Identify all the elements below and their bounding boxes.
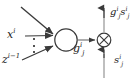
input-ellipsis <box>32 38 36 53</box>
label-input-s-sub: j <box>121 60 123 67</box>
label-input-x-sup: i <box>13 27 15 35</box>
label-input-z: zi−1 <box>2 54 20 65</box>
ellipsis-dot <box>33 51 35 53</box>
label-mid-g: gij <box>73 43 84 54</box>
label-output-gs-sup2: i <box>125 5 127 12</box>
label-mid-g-sub: j <box>82 49 84 57</box>
label-output-gs: gijsij <box>110 7 129 17</box>
label-input-z-sup: i−1 <box>8 52 20 60</box>
ellipsis-dot <box>33 45 35 47</box>
label-mid-g-base: g <box>73 42 80 55</box>
ellipsis-dot <box>33 38 35 40</box>
input-arrow-z <box>22 46 53 60</box>
label-output-gs-sub2: j <box>127 12 129 19</box>
product-node <box>97 33 111 47</box>
label-output-gs-sup1: i <box>116 5 118 12</box>
gating-unit-diagram: xi zi−1 gij gijsij sij <box>0 0 134 79</box>
input-arrow-x <box>25 36 53 37</box>
label-input-s: sij <box>114 55 123 65</box>
label-input-s-sup: i <box>119 53 121 60</box>
input-arrow-top <box>21 7 53 34</box>
label-input-x: xi <box>7 29 15 40</box>
